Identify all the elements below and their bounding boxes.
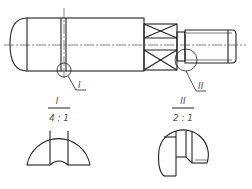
shaft-neck [177,32,185,61]
shaft-dome-end [10,18,27,71]
detail-scale-II: 2 : 1 [173,113,193,123]
detail-view-label-II: II [180,96,186,106]
leader-line-I [68,76,86,90]
detail-scale-I: 4 : 1 [49,113,69,123]
detail-view-label-I: I [56,96,59,106]
callout-label-I: I [78,80,81,90]
callout-label-II: II [198,81,204,91]
shaft-main-body [27,18,144,71]
detail-view-II [159,130,209,176]
technical-drawing: I II I 4 : 1 II 2 : 1 [0,0,252,189]
detail-view-I [27,131,90,165]
